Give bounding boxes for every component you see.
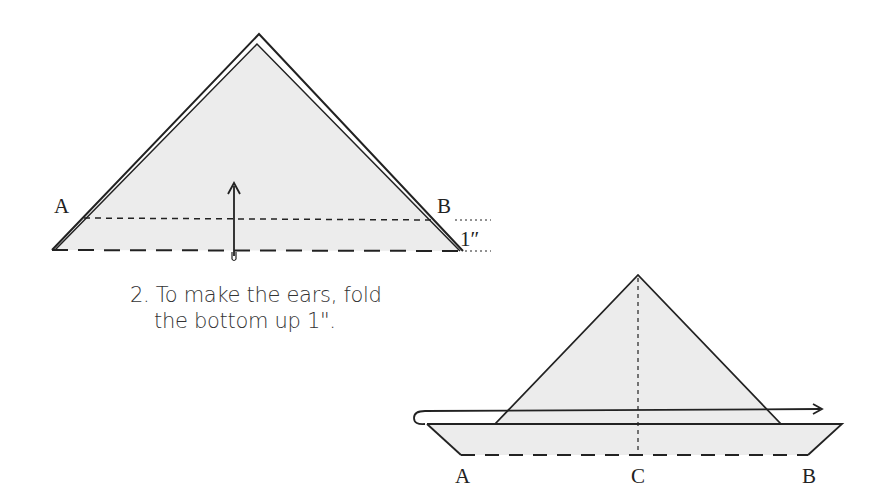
top-triangle-diagram (52, 34, 491, 261)
bottom-folded-diagram (414, 275, 842, 455)
caption-line-2: the bottom up 1". (130, 308, 390, 334)
top-label-a: A (54, 194, 70, 218)
band-fill (427, 424, 842, 455)
diagram-canvas: A B 1″ A C B (0, 0, 880, 499)
bottom-label-b: B (802, 464, 816, 488)
top-label-b: B (437, 194, 451, 218)
bottom-label-a: A (455, 464, 471, 488)
bottom-label-c: C (631, 464, 645, 488)
caption-line-1: 2. To make the ears, fold (130, 282, 390, 308)
top-triangle-fill (52, 44, 463, 251)
measure-label: 1″ (460, 227, 479, 251)
instruction-caption: 2. To make the ears, fold the bottom up … (130, 282, 390, 334)
